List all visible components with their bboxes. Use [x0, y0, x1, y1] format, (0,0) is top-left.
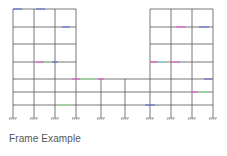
structural-frame-diagram	[0, 0, 227, 125]
diagram-caption: Frame Example	[9, 133, 81, 144]
